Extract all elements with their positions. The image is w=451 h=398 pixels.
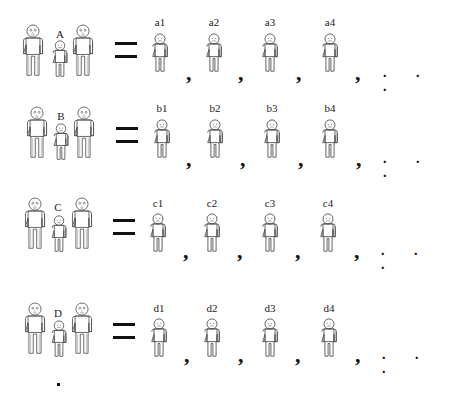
child-label: a1 (148, 17, 172, 28)
separator-comma: , (355, 62, 361, 84)
adult-person-icon (22, 195, 48, 253)
child-label: d3 (258, 303, 282, 314)
separator-comma: , (356, 148, 362, 170)
child-person-icon (148, 211, 168, 255)
family-label: A (48, 29, 72, 40)
child-person-icon (51, 123, 71, 161)
adult-person-icon (69, 300, 95, 358)
family-row-d: D d1 , d2 , d3 , d4 , . . . (0, 290, 451, 380)
child-label: b3 (260, 103, 284, 114)
equals-sign (115, 42, 137, 58)
ellipsis: . . . (382, 348, 451, 376)
child-person-icon (260, 30, 280, 76)
separator-comma: , (186, 62, 192, 84)
child-person-icon (202, 211, 222, 255)
adult-person-icon (22, 300, 48, 358)
child-person-icon (260, 211, 280, 255)
separator-comma: , (295, 344, 301, 366)
separator-comma: , (238, 344, 244, 366)
separator-comma: , (183, 240, 189, 262)
child-person-icon (49, 215, 69, 253)
child-person-icon (204, 30, 224, 76)
child-label: d4 (317, 303, 341, 314)
adult-person-icon (70, 22, 96, 80)
separator-comma: , (354, 240, 360, 262)
child-label: c2 (200, 198, 224, 209)
child-person-icon (320, 116, 340, 162)
family-row-a: A a1 , a2 , a3 , a4 , . . . (0, 0, 451, 90)
equals-sign (113, 323, 135, 339)
ellipsis: . . . (383, 152, 451, 180)
child-label: d1 (147, 303, 171, 314)
child-person-icon (205, 116, 225, 162)
child-label: d2 (200, 303, 224, 314)
separator-comma: , (296, 62, 302, 84)
child-label: a2 (202, 17, 226, 28)
child-label: b1 (150, 103, 174, 114)
family-label: C (46, 202, 70, 213)
child-label: c1 (146, 198, 170, 209)
family-label: B (49, 111, 73, 122)
child-person-icon (149, 316, 169, 360)
separator-comma: , (240, 148, 246, 170)
ellipsis: . . . (381, 244, 451, 272)
child-person-icon (319, 316, 339, 360)
adult-person-icon (71, 104, 97, 162)
child-label: a3 (258, 17, 282, 28)
child-person-icon (202, 316, 222, 360)
child-person-icon (318, 211, 338, 255)
separator-comma: , (237, 240, 243, 262)
child-person-icon (260, 316, 280, 360)
separator-comma: , (298, 148, 304, 170)
family-label: D (46, 308, 70, 319)
child-label: b4 (318, 103, 342, 114)
equals-sign (116, 127, 138, 143)
separator-comma: , (295, 240, 301, 262)
separator-comma: , (355, 344, 361, 366)
child-person-icon (150, 30, 170, 76)
separator-comma: , (238, 62, 244, 84)
child-label: a4 (318, 17, 342, 28)
child-person-icon (49, 320, 69, 358)
child-label: c4 (316, 198, 340, 209)
trailing-dot (57, 383, 60, 386)
child-person-icon (320, 30, 340, 76)
equals-sign (113, 219, 135, 235)
adult-person-icon (69, 195, 95, 253)
separator-comma: , (186, 148, 192, 170)
child-person-icon (152, 116, 172, 162)
separator-comma: , (184, 344, 190, 366)
child-label: c3 (258, 198, 282, 209)
adult-person-icon (20, 22, 46, 80)
family-row-b: B b1 , b2 , b3 , b4 , . . . (0, 90, 451, 180)
adult-person-icon (24, 104, 50, 162)
family-row-c: C c1 , c2 , c3 , c4 , . . . (0, 190, 451, 280)
child-person-icon (50, 40, 70, 78)
child-label: b2 (203, 103, 227, 114)
child-person-icon (262, 116, 282, 162)
